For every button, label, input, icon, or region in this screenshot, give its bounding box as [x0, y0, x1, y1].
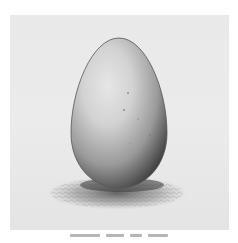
egg-drawing: [10, 15, 229, 230]
egg: [71, 38, 167, 188]
drawing-panel: [10, 15, 229, 230]
caption-text-blurred: [70, 234, 100, 237]
caption-text-blurred: [106, 234, 124, 237]
caption-text-blurred: [130, 234, 142, 237]
caption-text-blurred: [148, 234, 168, 237]
caption: [0, 231, 238, 243]
